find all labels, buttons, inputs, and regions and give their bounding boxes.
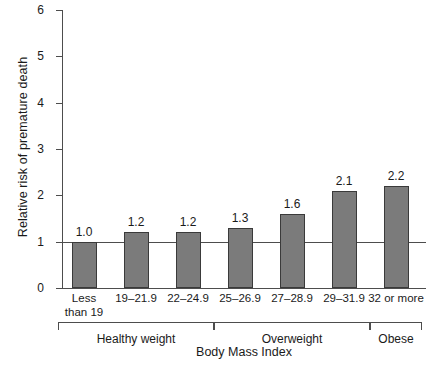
bracket-segment xyxy=(214,322,215,330)
y-axis-tick-label: 2 xyxy=(0,188,46,202)
bar-value-label: 1.3 xyxy=(214,211,266,225)
group-bracket: Overweight xyxy=(214,322,370,330)
bracket-segment xyxy=(214,322,370,323)
bar xyxy=(228,228,253,288)
bracket-segment xyxy=(58,322,214,323)
y-axis-tick-label: 1 xyxy=(0,235,46,249)
group-bracket: Obese xyxy=(370,322,422,330)
x-axis-category-label: 27–28.9 xyxy=(262,292,322,306)
x-axis-title: Body Mass Index xyxy=(62,345,426,359)
bracket-segment xyxy=(421,322,422,330)
x-axis-category-label: 22–24.9 xyxy=(158,292,218,306)
group-label: Obese xyxy=(370,332,422,346)
bar xyxy=(384,186,409,288)
bar-value-label: 1.2 xyxy=(162,215,214,229)
x-axis-category-label: Less than 19 xyxy=(54,292,114,319)
y-axis-tick-label: 6 xyxy=(0,3,46,17)
x-axis-category-label: 25–26.9 xyxy=(210,292,270,306)
x-axis-category-label: 19–21.9 xyxy=(106,292,166,306)
bar-value-label: 1.6 xyxy=(266,197,318,211)
bar-value-label: 1.0 xyxy=(58,225,110,239)
bar-value-label: 2.1 xyxy=(318,174,370,188)
bar xyxy=(72,242,97,288)
group-label: Healthy weight xyxy=(58,332,214,346)
group-label: Overweight xyxy=(214,332,370,346)
group-bracket: Healthy weight xyxy=(58,322,214,330)
y-axis-tick-label: 5 xyxy=(0,49,46,63)
x-axis-line xyxy=(62,288,426,289)
bar xyxy=(280,214,305,288)
x-axis-category-label: 32 or more xyxy=(366,292,426,306)
bar xyxy=(332,191,357,288)
y-axis-line xyxy=(62,10,63,289)
y-axis-tick-label: 0 xyxy=(0,281,46,295)
bracket-segment xyxy=(370,322,371,330)
y-axis-tick-label: 4 xyxy=(0,96,46,110)
bar xyxy=(124,232,149,288)
x-axis-category-label: 29–31.9 xyxy=(314,292,374,306)
bracket-segment xyxy=(58,322,59,330)
bar-value-label: 2.2 xyxy=(370,169,422,183)
bar-value-label: 1.2 xyxy=(110,215,162,229)
bar-chart: Relative risk of premature death 0123456… xyxy=(0,0,435,370)
bracket-segment xyxy=(370,322,422,323)
y-axis-tick-label: 3 xyxy=(0,142,46,156)
bar xyxy=(176,232,201,288)
